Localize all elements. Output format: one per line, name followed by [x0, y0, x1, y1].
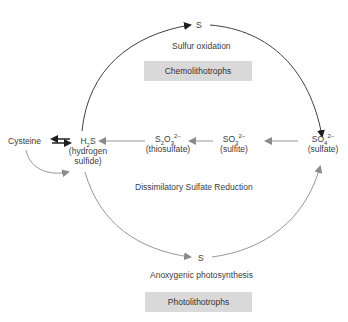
- h2s-name-line2: sulfide): [74, 156, 101, 166]
- h2s-node: H2S (hydrogen sulfide): [68, 136, 108, 166]
- bottom-sulfur-node: S: [198, 253, 204, 263]
- sulfite-name: (sulfite): [220, 144, 248, 154]
- cysteine-node: Cysteine: [8, 136, 41, 146]
- sulfur-oxidation-label: Sulfur oxidation: [172, 41, 231, 51]
- anoxygenic-photosynthesis-label: Anoxygenic photosynthesis: [150, 270, 253, 280]
- photosynthesis-arc-right: [212, 167, 320, 257]
- sulfate-formula: SO42−: [312, 134, 334, 144]
- sulfite-formula: SO32−: [223, 134, 245, 144]
- sulfate-node: SO42− (sulfate): [300, 134, 346, 154]
- thiosulfate-formula: S2O32−: [155, 134, 181, 144]
- chemolithotrophs-box: Chemolithotrophs: [144, 61, 252, 81]
- h2s-formula: H2S: [80, 136, 95, 146]
- dissimilatory-sulfate-reduction-label: Dissimilatory Sulfate Reduction: [135, 182, 253, 192]
- sulfate-name: (sulfate): [308, 144, 339, 154]
- top-sulfur-node: S: [196, 20, 202, 30]
- photolithotrophs-box: Photolithotrophs: [145, 292, 252, 312]
- sulfite-node: SO32− (sulfite): [212, 134, 256, 154]
- cysteine-curve-arrow: [26, 150, 68, 173]
- h2s-name-line1: (hydrogen: [69, 146, 107, 156]
- thiosulfate-node: S2O32− (thiosulfate): [142, 134, 194, 154]
- thiosulfate-name: (thiosulfate): [146, 144, 190, 154]
